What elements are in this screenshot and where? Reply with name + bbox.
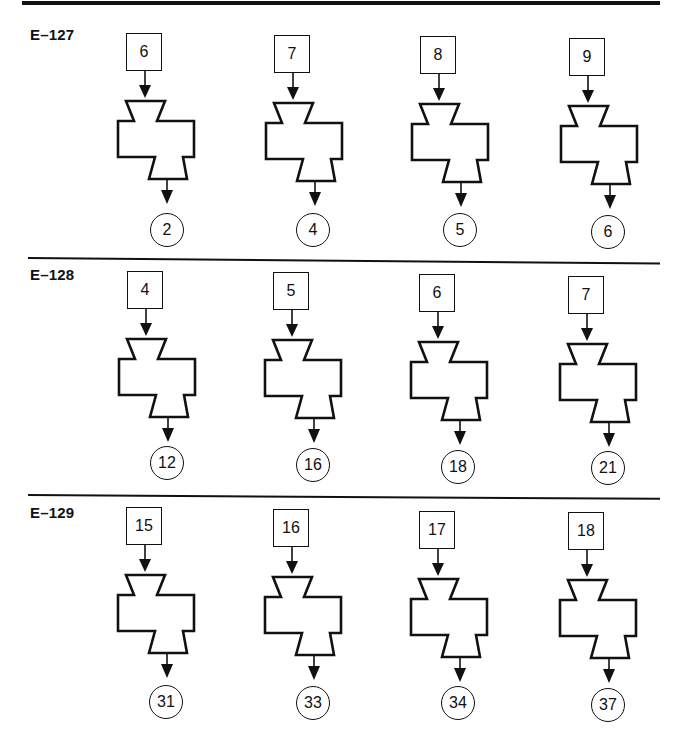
input-box: 6	[126, 33, 162, 71]
input-box: 4	[127, 271, 163, 309]
input-box: 15	[126, 507, 162, 545]
function-machine: 5 16	[273, 272, 433, 497]
input-box: 7	[568, 276, 604, 314]
input-box: 16	[273, 509, 309, 547]
input-box: 17	[419, 511, 455, 549]
input-box: 18	[568, 512, 604, 550]
function-machine: 16 33	[273, 509, 433, 734]
section-label: E–129	[30, 505, 74, 520]
output-circle: 4	[296, 213, 330, 247]
input-box: 7	[274, 35, 310, 73]
function-machine: 17 34	[419, 511, 579, 736]
function-machine: 4 12	[127, 271, 287, 496]
output-circle: 21	[591, 451, 625, 485]
function-machine: 7 4	[274, 35, 434, 260]
top-rule	[22, 1, 660, 5]
output-circle: 12	[150, 446, 184, 480]
input-box: 8	[420, 36, 456, 74]
function-machine: 6 18	[419, 274, 579, 499]
function-machine: 9 6	[569, 38, 680, 263]
output-circle: 37	[591, 688, 625, 722]
function-machine: 6 2	[126, 33, 286, 258]
section-label: E–127	[30, 27, 74, 42]
output-circle: 2	[150, 213, 184, 247]
function-machine: 7 21	[568, 276, 680, 501]
output-circle: 5	[443, 213, 477, 247]
function-machine: 18 37	[568, 512, 680, 737]
function-machine: 15 31	[126, 507, 286, 732]
output-circle: 16	[296, 448, 330, 482]
output-circle: 31	[149, 685, 183, 719]
section-label: E–128	[30, 267, 74, 282]
input-box: 6	[419, 274, 455, 312]
input-box: 5	[273, 272, 309, 310]
input-box: 9	[569, 38, 605, 76]
output-circle: 6	[591, 215, 625, 249]
output-circle: 34	[441, 686, 475, 720]
output-circle: 18	[441, 450, 475, 484]
output-circle: 33	[296, 686, 330, 720]
function-machine: 8 5	[420, 36, 580, 261]
